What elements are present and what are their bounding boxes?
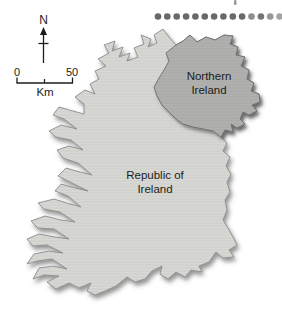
republic-label-line1: Republic of <box>126 169 184 181</box>
compass-n-label: N <box>39 13 48 27</box>
island-texture <box>27 29 260 295</box>
leader-dot <box>192 13 199 20</box>
leader-dot <box>155 13 162 20</box>
leader-dot <box>230 13 237 20</box>
cropped-mark <box>234 0 237 5</box>
leader-dot <box>248 13 255 20</box>
scale-unit-label: Km <box>36 86 53 98</box>
dots-row <box>155 13 282 20</box>
leader-dot <box>164 13 171 20</box>
leader-dot <box>202 13 209 20</box>
leader-dot <box>211 13 218 20</box>
leader-dot <box>276 13 282 20</box>
north-arrow-icon: N <box>39 13 49 63</box>
leader-dot <box>173 13 180 20</box>
leader-dot <box>267 13 274 20</box>
map-figure: Northern Ireland Republic of Ireland N 0… <box>0 0 282 309</box>
scale-end-value: 50 <box>66 66 78 78</box>
leader-dot <box>220 13 227 20</box>
northern-ireland-label-line2: Ireland <box>191 84 226 96</box>
ireland-map-canvas: Northern Ireland Republic of Ireland N 0… <box>0 0 282 309</box>
scale-bar: 0 50 Km <box>14 66 78 98</box>
northern-ireland-label-line1: Northern <box>187 70 232 82</box>
scale-start-value: 0 <box>14 66 20 78</box>
leader-dot <box>258 13 265 20</box>
leader-dot <box>183 13 190 20</box>
republic-label-line2: Ireland <box>137 183 172 195</box>
leader-dot <box>239 13 246 20</box>
